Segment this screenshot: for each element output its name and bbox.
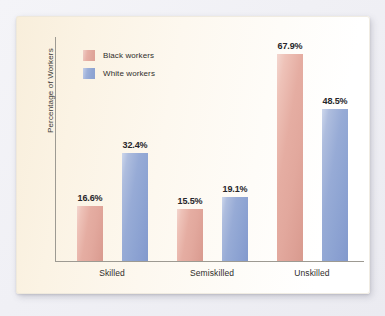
bar-skilled-white[interactable]: 32.4% — [122, 153, 148, 261]
bar-value-unskilled-white: 48.5% — [322, 96, 347, 106]
x-axis-label-unskilled: Unskilled — [294, 268, 329, 278]
y-axis-title: Percentage of Workers — [46, 0, 55, 133]
bar-group-unskilled: 67.9% 48.5% — [277, 37, 349, 261]
bar-value-unskilled-black: 67.9% — [277, 41, 302, 51]
bar-group-skilled: 16.6% 32.4% — [77, 37, 149, 261]
bar-value-semiskilled-white: 19.1% — [222, 184, 247, 194]
bar-unskilled-black[interactable]: 67.9% — [277, 54, 303, 261]
bar-value-semiskilled-black: 15.5% — [177, 196, 202, 206]
bar-group-semiskilled: 15.5% 19.1% — [177, 37, 249, 261]
bar-value-skilled-white: 32.4% — [122, 140, 147, 150]
x-axis-line — [55, 261, 364, 262]
chart-figure: Percentage of Workers Black workers Whit… — [0, 0, 385, 316]
x-axis-label-semiskilled: Semiskilled — [190, 268, 234, 278]
plot-area: Percentage of Workers Black workers Whit… — [55, 37, 364, 278]
bar-skilled-black[interactable]: 16.6% — [77, 206, 103, 261]
bar-semiskilled-black[interactable]: 15.5% — [177, 209, 203, 261]
bar-semiskilled-white[interactable]: 19.1% — [222, 197, 248, 261]
y-axis-line — [55, 37, 56, 262]
bar-unskilled-white[interactable]: 48.5% — [322, 109, 348, 261]
x-axis-label-skilled: Skilled — [99, 268, 125, 278]
chart-card: Percentage of Workers Black workers Whit… — [16, 16, 370, 294]
bar-value-skilled-black: 16.6% — [77, 193, 102, 203]
